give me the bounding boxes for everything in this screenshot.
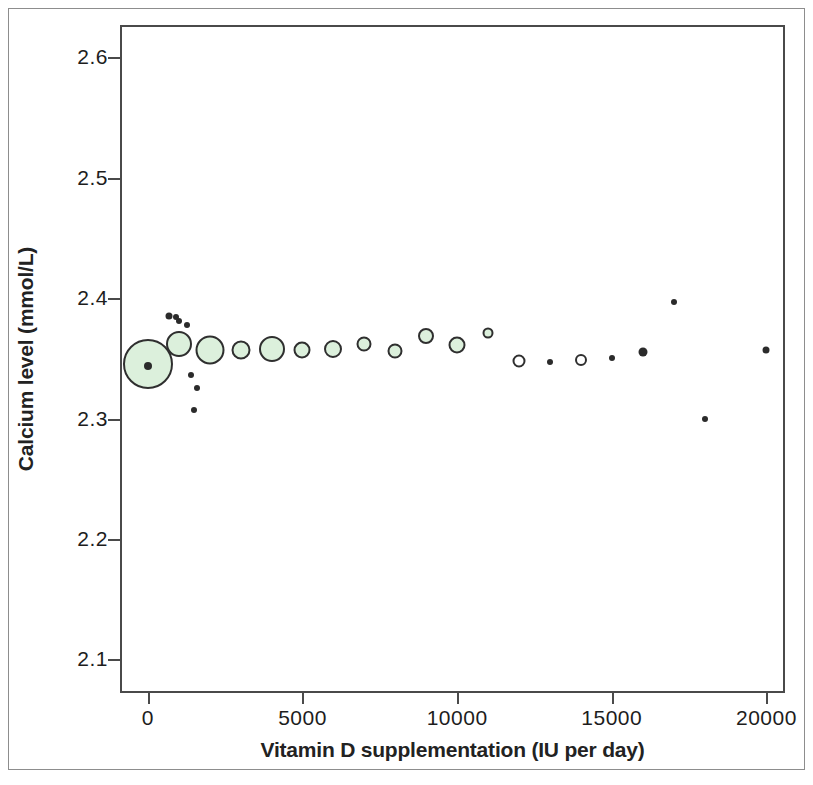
x-axis-label: Vitamin D supplementation (IU per day) xyxy=(120,738,785,762)
data-bubble xyxy=(388,344,403,359)
data-bubble xyxy=(483,328,494,339)
x-tick-label: 15000 xyxy=(552,706,672,730)
x-tick-mark xyxy=(766,693,768,704)
y-tick-mark xyxy=(108,57,120,59)
data-bubble xyxy=(357,336,372,351)
x-tick-label: 10000 xyxy=(397,706,517,730)
x-tick-mark xyxy=(612,693,614,704)
x-tick-label: 0 xyxy=(88,706,208,730)
data-dot xyxy=(191,407,197,413)
data-dot xyxy=(184,322,190,328)
data-bubble xyxy=(166,331,192,357)
x-tick-label: 20000 xyxy=(706,706,813,730)
x-tick-mark xyxy=(457,693,459,704)
data-dot xyxy=(671,299,677,305)
x-tick-mark xyxy=(148,693,150,704)
data-dot xyxy=(547,359,553,365)
data-bubble xyxy=(294,341,311,358)
y-tick-mark xyxy=(108,298,120,300)
y-tick-label: 2.5 xyxy=(50,166,108,190)
x-tick-mark xyxy=(302,693,304,704)
y-tick-mark xyxy=(108,539,120,541)
y-tick-label: 2.4 xyxy=(50,286,108,310)
data-bubble xyxy=(449,337,466,354)
data-bubble xyxy=(259,336,285,362)
y-tick-mark xyxy=(108,178,120,180)
y-axis-label: Calcium level (mmol/L) xyxy=(14,25,48,693)
data-bubble xyxy=(513,354,526,367)
data-dot xyxy=(188,372,194,378)
y-tick-label: 2.6 xyxy=(50,45,108,69)
data-bubble xyxy=(324,340,342,358)
data-dot xyxy=(763,346,770,353)
y-tick-label: 2.3 xyxy=(50,407,108,431)
y-tick-label: 2.1 xyxy=(50,647,108,671)
data-bubble xyxy=(231,340,250,359)
data-dot xyxy=(702,416,708,422)
data-dot xyxy=(194,385,200,391)
x-tick-label: 5000 xyxy=(242,706,362,730)
data-dot xyxy=(176,318,182,324)
y-tick-label: 2.2 xyxy=(50,527,108,551)
data-bubble xyxy=(195,335,224,364)
data-marker-layer xyxy=(120,25,785,693)
data-dot xyxy=(609,355,615,361)
data-bubble xyxy=(418,328,434,344)
data-dot xyxy=(638,348,647,357)
y-tick-mark xyxy=(108,419,120,421)
data-bubble xyxy=(575,354,587,366)
y-tick-mark xyxy=(108,659,120,661)
figure-container: Calcium level (mmol/L) 2.12.22.32.42.52.… xyxy=(0,0,813,785)
data-dot xyxy=(144,362,152,370)
